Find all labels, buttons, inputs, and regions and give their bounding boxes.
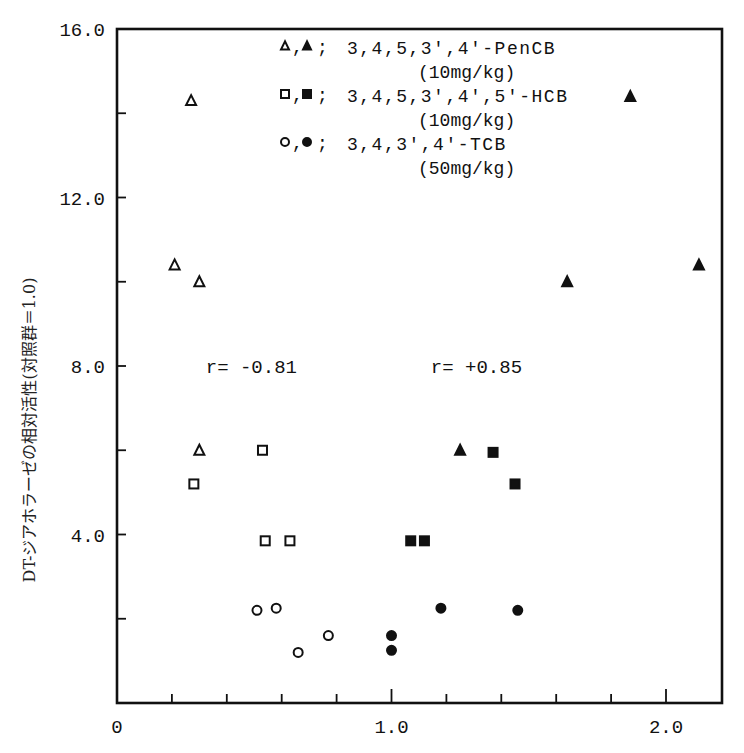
legend-comma: , [292,134,303,154]
legend-label: 3,4,5,3′,4′-PenCB [347,39,556,59]
circle-filled-point [436,604,445,613]
square-filled-point [420,536,429,545]
circle-filled-point [387,631,396,640]
x-axis: 01.02.0 [111,689,683,739]
figure-caption-cropped [0,738,744,753]
triangle-filled-point [455,445,465,455]
legend-comma: , [292,38,303,58]
legend-label: 3,4,3′,4′-TCB [347,135,507,155]
circle-open-point [252,606,261,615]
legend-label: 3,4,5,3′,4′,5′-HCB [347,87,568,107]
x-tick-label: 0 [111,717,122,739]
y-tick-label: 8.0 [71,357,105,379]
y-axis-label-text: DT-ジアホラーゼの相対活性(対照群＝1.0) [16,278,40,583]
correlation-label: r= -0.81 [206,357,297,379]
circle-filled-point [387,646,396,655]
square-filled-point [489,448,498,457]
y-tick-label: 12.0 [59,189,105,211]
series-square-open [189,446,294,546]
triangle-open-point [194,445,204,455]
circle-open-point [294,648,303,657]
series-square-filled [406,448,519,545]
triangle-filled-point [562,276,572,286]
triangle-filled-point [625,91,635,101]
square-open-point [189,479,198,488]
square-filled-point [406,536,415,545]
triangle-open-point [186,95,196,105]
circle-open-point [324,631,333,640]
square-open-point [285,536,294,545]
legend-dose: (10mg/kg) [418,63,515,83]
correlation-label: r= +0.85 [431,357,522,379]
triangle-open-point [194,276,204,286]
triangle-filled-point [694,259,704,269]
scatter-chart: 01.02.0 4.08.012.016.0 ,;3,4,5,3′,4′-Pen… [0,0,744,753]
square-filled-legend-icon [303,90,311,98]
legend-dose: (50mg/kg) [418,159,515,179]
circle-filled-point [513,606,522,615]
y-tick-label: 16.0 [59,20,105,42]
square-open-point [261,536,270,545]
y-tick-label: 4.0 [71,526,105,548]
legend-dose: (10mg/kg) [418,111,515,131]
square-filled-point [511,479,520,488]
legend-comma: , [292,86,303,106]
correlation-annotations: r= -0.81r= +0.85 [206,357,522,379]
x-tick-label: 2.0 [649,717,683,739]
square-open-legend-icon [281,90,289,98]
series-triangle-open [170,95,205,455]
legend-semicolon: ; [317,38,328,58]
triangle-filled-legend-icon [303,41,311,49]
y-axis-label: DT-ジアホラーゼの相対活性(対照群＝1.0) [8,210,48,650]
legend-semicolon: ; [317,86,328,106]
circle-open-point [272,604,281,613]
legend: ,;3,4,5,3′,4′-PenCB(10mg/kg),;3,4,5,3′,4… [281,38,568,179]
series-circle-open [252,604,332,657]
circle-open-legend-icon [281,138,289,146]
square-open-point [258,446,267,455]
x-tick-label: 1.0 [374,717,408,739]
triangle-open-legend-icon [281,41,289,49]
triangle-open-point [170,259,180,269]
series-circle-filled [387,604,522,655]
circle-filled-legend-icon [303,138,311,146]
legend-semicolon: ; [317,134,328,154]
